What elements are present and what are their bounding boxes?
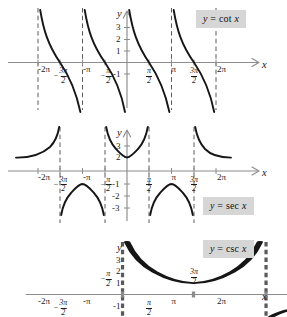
y-axis-label-sec: y [117, 127, 122, 138]
y-axis [123, 11, 130, 108]
y-tick-label: -1 [112, 180, 120, 189]
x-axis-label-cot: x [262, 59, 267, 70]
x-tick-label: π2 [146, 176, 152, 194]
y-tick-label: -3 [112, 204, 120, 213]
y-tick-label: 1 [116, 47, 121, 56]
x-tick-label: 3π2 [189, 67, 199, 85]
eq-lhs: y [210, 200, 215, 211]
panel-csc: y x 3 2 1 -1 -2π −3π2 -π −π2 π2 π 3π2 2π… [0, 228, 287, 317]
x-tick-label: −3π2 [54, 67, 69, 85]
panel-cot: y x 3 2 1 -1 -2π −3π2 -π −π2 π2 π 3π2 2π… [0, 0, 287, 110]
x-tick-label: 3π2 [189, 176, 199, 194]
y-tick-label: 3 [116, 142, 121, 151]
eq-op: = [217, 243, 223, 254]
x-tick-label: −3π2 [54, 299, 69, 317]
x-tick-label: −3π2 [54, 176, 69, 194]
x-tick-label: 3π2 [189, 268, 199, 286]
y-tick-label: 2 [116, 267, 121, 276]
y-tick-label: -1 [113, 302, 121, 311]
eq-arg: x [234, 13, 239, 24]
equation-label-csc: y = csc x [203, 240, 254, 258]
y-tick-label: 3 [116, 23, 121, 32]
eq-op: = [217, 200, 223, 211]
eq-fn: cot [219, 13, 232, 24]
y-axis-label-csc: y [117, 242, 122, 253]
panel-sec: y x 3 2 -1 -2 -3 -2π −3π2 -π −π2 π2 π 3π… [0, 105, 287, 223]
x-axis-label-csc: x [262, 291, 267, 302]
equation-label-sec: y = sec x [203, 197, 254, 215]
x-tick-label: π2 [146, 67, 152, 85]
x-tick-label: −π2 [101, 176, 112, 194]
y-axis [123, 130, 130, 221]
x-tick-label: −π2 [101, 67, 112, 85]
eq-arg: x [242, 243, 247, 254]
y-tick-label: 2 [116, 153, 121, 162]
y-tick-label: 3 [116, 256, 121, 265]
y-axis-label-cot: y [117, 8, 122, 19]
x-tick-label: −π2 [101, 270, 112, 288]
eq-op: = [210, 13, 216, 24]
x-tick-label: π2 [146, 299, 152, 317]
eq-arg: x [242, 200, 247, 211]
eq-fn: sec [226, 200, 239, 211]
figure-canvas: y x 3 2 1 -1 -2π −3π2 -π −π2 π2 π 3π2 2π… [0, 0, 287, 317]
y-tick-label: 2 [116, 35, 121, 44]
y-tick-label: -2 [112, 192, 120, 201]
eq-lhs: y [203, 13, 208, 24]
y-tick-label: -1 [113, 70, 121, 79]
x-axis-label-sec: x [262, 167, 267, 178]
eq-lhs: y [210, 243, 215, 254]
y-tick-label: 1 [116, 279, 121, 288]
eq-fn: csc [226, 243, 239, 254]
equation-label-cot: y = cot x [196, 10, 246, 28]
